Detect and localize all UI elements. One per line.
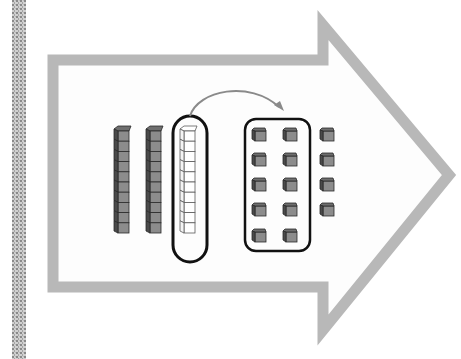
regrouping-diagram [0, 0, 461, 359]
tens-rod-shaded-2 [146, 126, 163, 233]
diagram-canvas [0, 0, 461, 359]
tens-rod-shaded-1 [114, 126, 131, 233]
big-arrow-outline [53, 25, 449, 330]
tens-rod-highlighted [180, 126, 197, 233]
